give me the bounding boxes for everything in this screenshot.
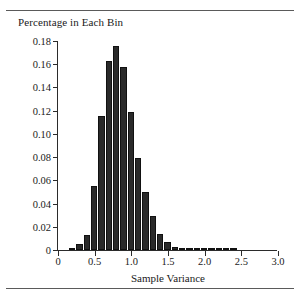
y-tick-label: 0.16 [33,59,51,70]
x-tick-label: 0.5 [88,256,101,267]
histogram-bar [208,248,214,250]
x-tick-label: 0 [55,256,60,267]
bottom-horizontal-rule [6,288,294,289]
y-tick-label: 0.14 [33,82,51,93]
histogram-bar [150,216,156,250]
y-tick-mark [53,134,58,135]
histogram-bar [230,248,236,250]
histogram-bar [164,242,170,250]
y-tick-mark [53,227,58,228]
x-tick-label: 1.0 [125,256,138,267]
histogram-bar [120,67,126,250]
y-tick-label: 0.12 [33,105,51,116]
y-axis-line [57,41,58,250]
x-tick-label: 3.0 [271,256,284,267]
y-tick-mark [53,204,58,205]
x-tick-label: 2.0 [198,256,211,267]
y-tick-label: 0.10 [33,128,51,139]
histogram-bar [172,247,178,250]
chart-title: Percentage in Each Bin [18,16,123,28]
histogram-bar [98,116,104,250]
histogram-bar [179,248,185,250]
y-tick-label: 0.02 [33,221,51,232]
histogram-bar [84,235,90,250]
y-tick-label: 0.08 [33,152,51,163]
histogram-bar [194,248,200,250]
histogram-bar [91,186,97,250]
histogram-bar [201,248,207,250]
histogram-bar [135,158,141,250]
y-tick-label: 0.18 [33,36,51,47]
x-axis-line [57,250,277,251]
x-axis-title: Sample Variance [58,272,278,284]
y-tick-mark [53,111,58,112]
histogram-bar [76,244,82,250]
top-horizontal-rule [6,10,294,11]
y-tick-label: 0 [46,245,51,256]
histogram-bar [223,248,229,250]
histogram-bar [216,248,222,250]
y-tick-mark [53,157,58,158]
histogram-bar [113,46,119,250]
x-tick-label: 1.5 [161,256,174,267]
plot-area: 00.020.040.060.080.100.120.140.160.18 00… [58,41,278,250]
histogram-bar [69,248,75,250]
histogram-bar [106,61,112,250]
y-tick-mark [53,87,58,88]
histogram-bar [186,248,192,250]
y-tick-mark [53,41,58,42]
y-tick-label: 0.06 [33,175,51,186]
y-tick-mark [53,64,58,65]
histogram-bar [142,192,148,250]
histogram-bar [157,234,163,250]
x-tick-label: 2.5 [235,256,248,267]
y-tick-label: 0.04 [33,198,51,209]
y-tick-mark [53,180,58,181]
histogram-bar [128,112,134,250]
